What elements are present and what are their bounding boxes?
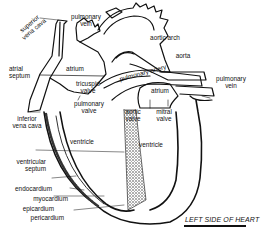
label-pulmonary-vein-top: pulmonary vein [64,14,108,28]
label-tricuspid-valve: tricuspid valve [68,81,108,95]
label-ventricle-right: ventricle [65,139,99,146]
label-pulmonary-valve: pulmonary valve [68,101,110,115]
label-ventricular-septum: ventricular septum [2,159,46,173]
label-myocardium: myocardium [18,196,68,203]
title-underline [184,225,246,227]
label-epicardium: epicardium [4,206,54,213]
label-aorta: aorta [168,53,198,60]
label-ventricle-left: ventricle [134,142,168,149]
diagram-title: LEFT SIDE OF HEART [185,216,259,223]
label-inferior-vena-cava: inferior vena cava [8,116,46,130]
label-mitral-valve: mitral valve [149,109,179,123]
label-atrium-right: atrium [60,66,90,73]
label-aortic-arch: aortic arch [140,35,190,42]
ventricular-septum-shape [124,110,146,210]
label-pulmonary-vein-right: pulmonary vein [208,76,254,90]
label-endocardium: endocardium [2,186,52,193]
label-atrial-septum: atrial septum [9,66,45,80]
label-aortic-valve: aortic valve [118,109,148,123]
label-atrium-left: atrium [145,88,175,95]
label-pericardium: pericardium [14,215,64,222]
